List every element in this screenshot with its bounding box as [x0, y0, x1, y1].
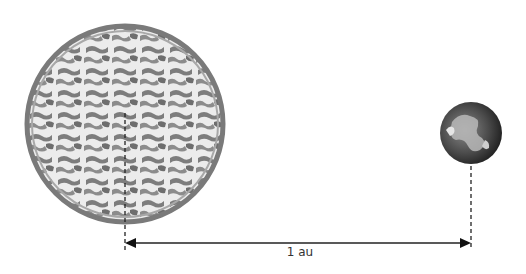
sun-earth-diagram — [0, 0, 526, 274]
distance-label: 1 au — [270, 245, 330, 259]
earth-sphere — [440, 102, 502, 164]
